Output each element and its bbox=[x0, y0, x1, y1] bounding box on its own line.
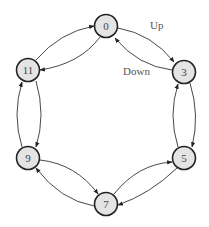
node-label-11: 11 bbox=[23, 64, 34, 76]
node-7: 7 bbox=[95, 193, 118, 216]
edge-7-to-9 bbox=[36, 168, 94, 206]
edge-label-down: Down bbox=[123, 65, 150, 77]
state-diagram: Up Down 0 3 5 7 9 11 bbox=[0, 0, 209, 227]
edge-label-up: Up bbox=[150, 19, 164, 31]
edge-7-to-5 bbox=[114, 162, 172, 194]
edge-5-to-7 bbox=[118, 168, 177, 205]
edge-11-to-0 bbox=[36, 26, 94, 60]
edge-3-to-5 bbox=[190, 83, 196, 147]
node-label-0: 0 bbox=[103, 20, 109, 32]
node-11: 11 bbox=[17, 59, 40, 82]
edge-0-to-3 bbox=[118, 28, 174, 62]
node-label-3: 3 bbox=[181, 66, 187, 78]
node-label-9: 9 bbox=[25, 152, 31, 164]
edge-9-to-7 bbox=[40, 160, 98, 194]
node-5: 5 bbox=[173, 147, 196, 170]
node-label-5: 5 bbox=[181, 152, 187, 164]
edge-9-to-11 bbox=[17, 82, 22, 147]
node-3: 3 bbox=[173, 61, 196, 84]
node-9: 9 bbox=[17, 147, 40, 170]
edge-5-to-3 bbox=[173, 84, 178, 147]
edge-0-to-11 bbox=[40, 37, 100, 70]
node-label-7: 7 bbox=[103, 198, 109, 210]
edge-11-to-9 bbox=[36, 81, 41, 147]
node-0: 0 bbox=[95, 15, 118, 38]
